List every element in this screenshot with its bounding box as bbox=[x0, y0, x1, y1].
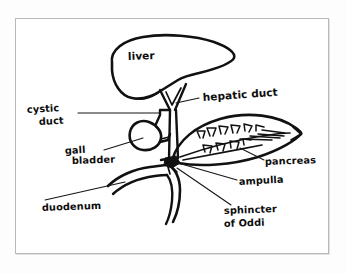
cystic-duct-shape bbox=[156, 110, 170, 142]
label-sphincter-of-oddi-line2: of Oddi bbox=[224, 217, 265, 229]
liver-shape bbox=[112, 35, 234, 98]
gall-bladder-shape bbox=[130, 121, 162, 150]
label-sphincter-of-oddi-line1: sphincter bbox=[224, 203, 277, 216]
label-liver: liver bbox=[128, 49, 156, 62]
biliary-system-diagram: liver hepatic duct cystic duct gall blad… bbox=[0, 0, 347, 274]
figure-root: liver hepatic duct cystic duct gall blad… bbox=[0, 0, 347, 274]
label-gall-bladder-line2: bladder bbox=[72, 153, 116, 166]
leader-sphincter-of-oddi bbox=[177, 168, 231, 205]
label-pancreas: pancreas bbox=[265, 154, 317, 167]
label-duodenum: duodenum bbox=[42, 200, 102, 213]
leader-duodenum bbox=[45, 182, 125, 200]
label-cystic-duct-line1: cystic bbox=[27, 102, 60, 115]
label-hepatic-duct: hepatic duct bbox=[202, 86, 278, 103]
label-ampulla: ampulla bbox=[239, 174, 284, 187]
hepatic-duct-shape bbox=[160, 84, 186, 160]
label-cystic-duct-line2: duct bbox=[39, 115, 65, 127]
